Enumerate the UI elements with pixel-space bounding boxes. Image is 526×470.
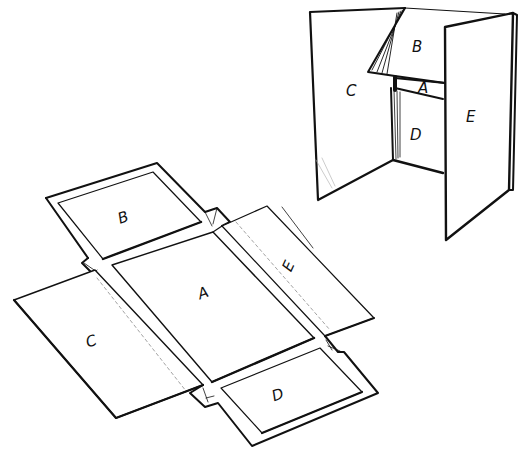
panel-d-bottom-edge bbox=[393, 160, 443, 173]
corner-notch-bl bbox=[203, 388, 214, 402]
panel-b-top-edge bbox=[405, 8, 505, 14]
net-e-panel bbox=[222, 206, 374, 336]
net-a-bottom-edge bbox=[212, 338, 314, 382]
panel-b-edges bbox=[368, 8, 445, 83]
box-label-c: C bbox=[346, 82, 357, 100]
panel-b-thickness bbox=[372, 10, 403, 74]
flat-net bbox=[14, 163, 378, 446]
panel-e-edges bbox=[445, 13, 513, 240]
panel-d-thickness bbox=[394, 90, 400, 159]
net-label-d: D bbox=[269, 384, 286, 405]
box-label-e: E bbox=[466, 108, 476, 126]
net-b-left-edge bbox=[46, 198, 88, 258]
box-label-b: B bbox=[412, 38, 422, 56]
panel-c-hatch bbox=[316, 158, 335, 188]
diagram-canvas: C B A D E B A E C D bbox=[0, 0, 526, 470]
panel-d-left-edge bbox=[391, 88, 393, 160]
box-label-d: D bbox=[410, 126, 422, 144]
net-label-a: A bbox=[194, 283, 211, 304]
box-label-a: A bbox=[417, 79, 428, 97]
net-e-join bbox=[213, 226, 222, 232]
net-label-b: B bbox=[115, 207, 131, 227]
assembled-box bbox=[282, 8, 517, 248]
